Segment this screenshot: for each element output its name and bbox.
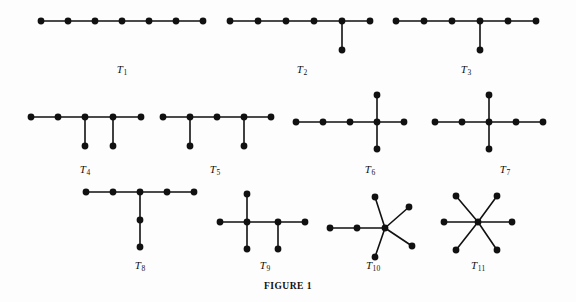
tree-graph-t4 — [28, 114, 145, 150]
tree-label-index: 4 — [87, 168, 91, 177]
graph-vertex — [374, 146, 381, 153]
tree-label-index: 11 — [478, 264, 486, 273]
graph-edge — [385, 228, 412, 246]
graph-vertex — [401, 119, 408, 126]
graph-vertex — [146, 18, 153, 25]
tree-label-t11: T11 — [471, 259, 485, 271]
graph-vertex — [283, 18, 290, 25]
graph-vertex — [173, 18, 180, 25]
graph-vertex — [477, 18, 484, 25]
graph-vertex — [406, 204, 413, 211]
graph-vertex — [409, 243, 416, 250]
graph-vertex — [311, 18, 318, 25]
tree-label-t6: T6 — [365, 163, 375, 175]
tree-label-index: 1 — [124, 68, 128, 77]
tree-label-index: 3 — [468, 68, 472, 77]
tree-label-index: 10 — [373, 264, 381, 273]
graph-vertex — [268, 114, 275, 121]
graph-vertex — [320, 119, 327, 126]
graph-vertex — [200, 18, 207, 25]
tree-graph-t8 — [83, 189, 198, 251]
graph-vertex — [82, 114, 89, 121]
graph-edge — [385, 207, 409, 228]
graph-vertex — [55, 114, 62, 121]
tree-graph-t9 — [217, 191, 309, 253]
tree-label-t4: T4 — [80, 163, 90, 175]
tree-graph-t5 — [160, 114, 275, 150]
graph-vertex — [82, 143, 89, 150]
graph-vertex — [382, 225, 389, 232]
graph-vertex — [244, 246, 251, 253]
tree-graph-t7 — [432, 92, 547, 153]
tree-label-t1: T1 — [117, 63, 127, 75]
graph-vertex — [374, 92, 381, 99]
graph-edge — [478, 196, 497, 222]
graph-vertex — [138, 114, 145, 121]
graph-vertex — [187, 114, 194, 121]
graph-vertex — [187, 143, 194, 150]
graph-vertex — [160, 114, 167, 121]
graph-vertex — [374, 119, 381, 126]
graph-vertex — [354, 225, 361, 232]
graph-vertex — [244, 191, 251, 198]
graph-vertex — [137, 189, 144, 196]
graph-vertex — [339, 18, 346, 25]
graph-vertex — [509, 219, 516, 226]
graph-vertex — [513, 119, 520, 126]
graph-edge — [375, 197, 385, 228]
graph-vertex — [533, 18, 540, 25]
graph-vertex — [275, 246, 282, 253]
graph-vertex — [92, 18, 99, 25]
tree-label-index: 9 — [267, 264, 271, 273]
tree-graph-t11 — [441, 193, 516, 254]
graph-vertex — [327, 225, 334, 232]
graph-vertex — [255, 18, 262, 25]
tree-label-base: T — [461, 63, 467, 75]
graph-vertex — [393, 18, 400, 25]
graph-vertex — [164, 189, 171, 196]
graph-vertex — [137, 244, 144, 251]
tree-label-base: T — [365, 163, 371, 175]
graph-vertex — [367, 18, 374, 25]
tree-label-base: T — [80, 163, 86, 175]
tree-graph-t6 — [293, 92, 408, 153]
figure-caption: FIGURE 1 — [264, 281, 312, 291]
graph-vertex — [453, 247, 460, 254]
graph-vertex — [449, 18, 456, 25]
graph-vertex — [347, 119, 354, 126]
graph-vertex — [137, 217, 144, 224]
tree-diagram-canvas — [0, 0, 576, 302]
tree-label-base: T — [117, 63, 123, 75]
graph-vertex — [505, 18, 512, 25]
graph-vertex — [241, 143, 248, 150]
graph-vertex — [38, 18, 45, 25]
graph-edge — [456, 196, 478, 222]
graph-vertex — [275, 219, 282, 226]
graph-vertex — [217, 219, 224, 226]
tree-label-index: 6 — [372, 168, 376, 177]
figure-container: T1T2T3T4T5T6T7T8T9T10T11 FIGURE 1 — [0, 0, 576, 302]
graph-vertex — [494, 193, 501, 200]
tree-label-t8: T8 — [135, 259, 145, 271]
tree-label-base: T — [471, 259, 477, 271]
tree-label-base: T — [297, 63, 303, 75]
tree-label-index: 8 — [142, 264, 146, 273]
tree-graph-t10 — [327, 194, 416, 261]
graph-vertex — [477, 47, 484, 54]
tree-label-base: T — [135, 259, 141, 271]
graph-vertex — [432, 119, 439, 126]
graph-vertex — [475, 219, 482, 226]
graph-vertex — [110, 189, 117, 196]
graph-vertex — [494, 247, 501, 254]
graph-vertex — [191, 189, 198, 196]
tree-label-index: 2 — [304, 68, 308, 77]
graph-vertex — [214, 114, 221, 121]
tree-graph-t1 — [38, 18, 207, 25]
graph-vertex — [339, 47, 346, 54]
graph-vertex — [227, 18, 234, 25]
graph-vertex — [486, 146, 493, 153]
graph-vertex — [540, 119, 547, 126]
graph-edge — [456, 222, 478, 250]
tree-label-t5: T5 — [210, 163, 220, 175]
graph-vertex — [241, 114, 248, 121]
